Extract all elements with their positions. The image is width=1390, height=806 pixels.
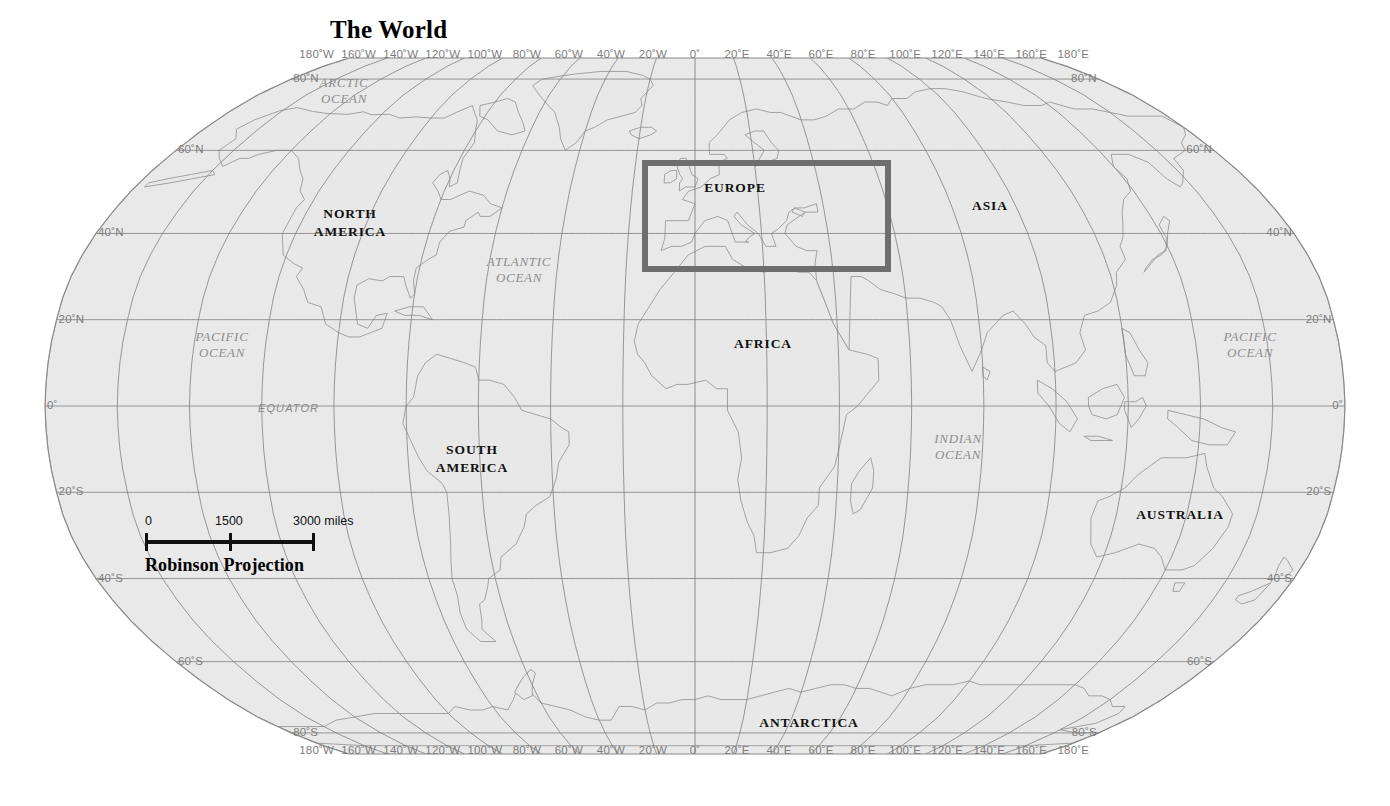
scale-tick-label-3000: 3000 miles xyxy=(293,514,353,528)
continent-label-south-america: SOUTHAMERICA xyxy=(392,441,552,477)
continent-label-line1: NORTH xyxy=(270,205,430,223)
ocean-label-line1: INDIAN xyxy=(888,431,1028,447)
ocean-label-line1: ARCTIC xyxy=(274,75,414,91)
lon-label-top-18: 180˚E xyxy=(1045,48,1101,60)
scale-bar-graphic xyxy=(145,533,315,551)
continent-label-line2: AMERICA xyxy=(392,459,552,477)
lat-label-right-8: 80˚S xyxy=(1059,726,1097,738)
ocean-label-line1: ATLANTIC xyxy=(449,254,589,270)
ocean-label-line2: OCEAN xyxy=(152,345,292,361)
continent-label-asia: ASIA xyxy=(910,197,1070,215)
ocean-label-line1: PACIFIC xyxy=(1180,329,1320,345)
scale-bar-tick-end xyxy=(312,533,315,551)
ocean-label-pacific-ocean-e: PACIFICOCEAN xyxy=(152,329,292,362)
lat-label-right-5: 20˚S xyxy=(1293,485,1331,497)
lon-label-bottom-18: 180˚E xyxy=(1045,744,1101,756)
scale-bar-tick-mid xyxy=(229,533,232,551)
ocean-label-line2: OCEAN xyxy=(888,447,1028,463)
continent-label-line1: ANTARCTICA xyxy=(729,714,889,732)
lat-label-left-4: 0˚ xyxy=(47,399,58,411)
continent-label-line2: AMERICA xyxy=(270,223,430,241)
ocean-label-line2: OCEAN xyxy=(1180,345,1320,361)
lat-label-right-2: 40˚N xyxy=(1254,226,1292,238)
continent-label-line1: ASIA xyxy=(910,197,1070,215)
ocean-label-arctic-ocean: ARCTICOCEAN xyxy=(274,75,414,108)
world-map: The World 180˚W160˚W140˚W120˚W100˚W80˚W6… xyxy=(0,0,1390,806)
continent-label-africa: AFRICA xyxy=(683,335,843,353)
scale-tick-label-1500: 1500 xyxy=(215,514,243,528)
scale-bar-numbers: 0 1500 3000 miles xyxy=(145,514,375,530)
lat-label-left-3: 20˚N xyxy=(59,313,85,325)
lat-label-right-6: 40˚S xyxy=(1254,572,1292,584)
scale-tick-label-0: 0 xyxy=(145,514,152,528)
lat-label-left-8: 80˚S xyxy=(293,726,318,738)
lat-label-right-1: 60˚N xyxy=(1174,143,1212,155)
lat-label-right-0: 80˚N xyxy=(1059,72,1097,84)
continent-label-australia: AUSTRALIA xyxy=(1100,506,1260,524)
ocean-label-atlantic-ocean: ATLANTICOCEAN xyxy=(449,254,589,287)
lat-label-left-2: 40˚N xyxy=(98,226,124,238)
lat-label-left-6: 40˚S xyxy=(98,572,123,584)
continent-label-line1: SOUTH xyxy=(392,441,552,459)
ocean-label-pacific-ocean-w: PACIFICOCEAN xyxy=(1180,329,1320,362)
ocean-label-indian-ocean: INDIANOCEAN xyxy=(888,431,1028,464)
continent-label-antarctica: ANTARCTICA xyxy=(729,714,889,732)
lat-label-left-1: 60˚N xyxy=(178,143,204,155)
ocean-label-line2: OCEAN xyxy=(449,270,589,286)
map-canvas xyxy=(0,0,1390,806)
ocean-label-line1: PACIFIC xyxy=(152,329,292,345)
lat-label-left-5: 20˚S xyxy=(59,485,84,497)
ocean-label-line2: OCEAN xyxy=(274,91,414,107)
lat-label-right-7: 60˚S xyxy=(1174,655,1212,667)
europe-highlight-box[interactable] xyxy=(642,160,891,272)
lat-label-right-4: 0˚ xyxy=(1305,399,1343,411)
scale-bar-tick-start xyxy=(145,533,148,551)
scale-bar: 0 1500 3000 miles Robinson Projection xyxy=(145,514,375,576)
equator-label: EQUATOR xyxy=(258,402,319,414)
projection-caption: Robinson Projection xyxy=(145,555,375,576)
continent-label-line1: AFRICA xyxy=(683,335,843,353)
lat-label-right-3: 20˚N xyxy=(1293,313,1331,325)
lat-label-left-7: 60˚S xyxy=(178,655,203,667)
continent-label-north-america: NORTHAMERICA xyxy=(270,205,430,241)
continent-label-line1: AUSTRALIA xyxy=(1100,506,1260,524)
